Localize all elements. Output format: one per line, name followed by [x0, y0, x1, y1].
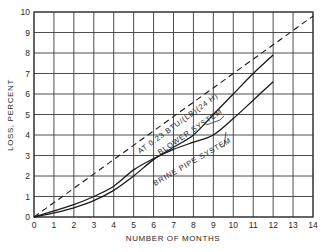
loss-vs-months-chart: 01234567891011121314 012345678910 NUMBER… [0, 0, 327, 252]
y-tick-label: 10 [21, 7, 31, 17]
y-tick-label: 1 [25, 192, 30, 202]
x-tick-label: 2 [71, 220, 76, 230]
y-tick-label: 9 [25, 28, 30, 38]
y-tick-label: 4 [25, 130, 30, 140]
x-tick-label: 3 [91, 220, 96, 230]
y-tick-label: 0 [25, 212, 30, 222]
y-tick-label: 3 [25, 151, 30, 161]
x-axis-label: NUMBER OF MONTHS [126, 234, 221, 243]
y-tick-label: 6 [25, 89, 30, 99]
x-tick-label: 0 [32, 220, 37, 230]
y-tick-label: 2 [25, 171, 30, 181]
x-tick-label: 13 [288, 220, 298, 230]
x-tick-label: 12 [268, 220, 278, 230]
y-axis-ticks: 012345678910 [21, 7, 31, 222]
y-axis-label: LOSS, PERCENT [6, 79, 15, 151]
x-tick-label: 10 [229, 220, 239, 230]
x-tick-label: 4 [111, 220, 116, 230]
x-tick-label: 6 [151, 220, 156, 230]
y-tick-label: 8 [25, 48, 30, 58]
x-tick-label: 9 [211, 220, 216, 230]
x-tick-label: 1 [52, 220, 57, 230]
x-tick-label: 14 [308, 220, 318, 230]
x-tick-label: 5 [131, 220, 136, 230]
x-axis-ticks: 01234567891011121314 [32, 220, 318, 230]
y-tick-label: 7 [25, 69, 30, 79]
x-tick-label: 11 [249, 220, 258, 230]
x-tick-label: 8 [191, 220, 196, 230]
y-tick-label: 5 [25, 110, 30, 120]
x-tick-label: 7 [171, 220, 176, 230]
